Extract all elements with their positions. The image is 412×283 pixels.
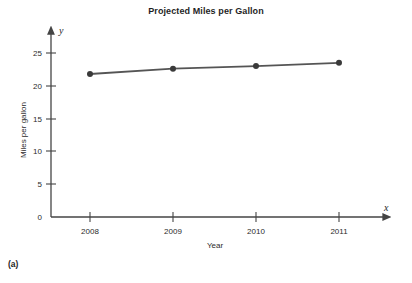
y-tick-label-10: 10 xyxy=(33,147,42,156)
x-tick-label-2009: 2009 xyxy=(164,227,182,236)
x-tick-label-2008: 2008 xyxy=(81,227,99,236)
y-tick-label-25: 25 xyxy=(33,49,42,58)
x-axis-title: Year xyxy=(207,241,224,250)
data-series-line xyxy=(90,63,339,74)
data-point-2010 xyxy=(253,63,259,69)
data-point-2008 xyxy=(87,71,93,77)
y-tick-label-5: 5 xyxy=(38,180,43,189)
data-point-2009 xyxy=(170,66,176,72)
y-tick-label-15: 15 xyxy=(33,115,42,124)
x-tick-label-2011: 2011 xyxy=(330,227,348,236)
y-axis-variable-label: y xyxy=(58,25,64,36)
x-axis-variable-label: x xyxy=(383,202,389,213)
data-point-markers xyxy=(87,60,342,77)
y-tick-label-20: 20 xyxy=(33,82,42,91)
line-chart: y x 25 20 15 10 5 0 2008 2009 2010 2011 xyxy=(0,0,412,283)
x-tick-label-2010: 2010 xyxy=(247,227,265,236)
figure-panel: Projected Miles per Gallon y x 25 20 15 … xyxy=(0,0,412,283)
y-axis-title: Miles per gallon xyxy=(19,102,28,158)
data-point-2011 xyxy=(336,60,342,66)
y-tick-label-0: 0 xyxy=(38,213,43,222)
panel-label: (a) xyxy=(8,259,18,269)
